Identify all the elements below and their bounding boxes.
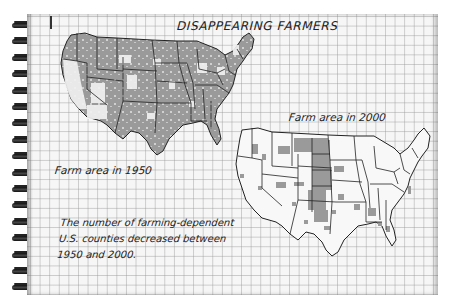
us-outline-1950	[61, 33, 254, 155]
us-map-2000	[228, 126, 438, 260]
map-label-1950: Farm area in 1950	[54, 164, 152, 176]
caption: The number of farming-dependent U.S. cou…	[56, 215, 261, 263]
caption-line-1: The number of farming-dependent	[60, 215, 262, 231]
map-label-2000: Farm area in 2000	[288, 111, 386, 123]
margin-mark	[50, 16, 52, 29]
us-outline-2000	[236, 128, 430, 256]
caption-line-3: 1950 and 2000.	[56, 247, 258, 263]
caption-line-2: U.S. counties decreased between	[58, 231, 260, 247]
